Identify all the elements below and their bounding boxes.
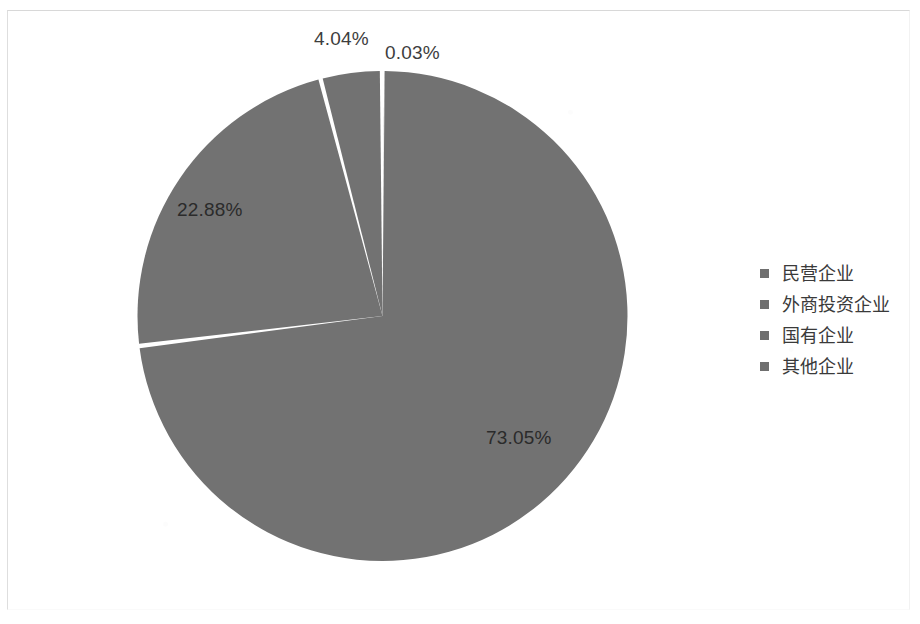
- pie-slices: [138, 71, 628, 561]
- pie-label-waishang: 22.88%: [177, 199, 243, 221]
- pie-label-minying: 73.05%: [486, 427, 552, 449]
- legend-item-label: 外商投资企业: [782, 296, 890, 314]
- legend-item-label: 其他企业: [782, 358, 854, 376]
- legend-item-label: 民营企业: [782, 265, 854, 283]
- pie-label-guoyou: 4.04%: [314, 28, 369, 50]
- legend-item-minying[interactable]: 民营企业: [760, 258, 912, 289]
- legend-item-label: 国有企业: [782, 327, 854, 345]
- pie-label-qita: 0.03%: [385, 42, 440, 64]
- legend-swatch-icon: [760, 362, 769, 371]
- legend-swatch-icon: [760, 331, 769, 340]
- legend-swatch-icon: [760, 300, 769, 309]
- legend-item-guoyou[interactable]: 国有企业: [760, 320, 912, 351]
- legend-item-qita[interactable]: 其他企业: [760, 351, 912, 382]
- chart-legend: 民营企业 外商投资企业 国有企业 其他企业: [760, 258, 912, 382]
- legend-item-waishang[interactable]: 外商投资企业: [760, 289, 912, 320]
- legend-swatch-icon: [760, 269, 769, 278]
- pie-chart-figure: 4.04% 0.03% 22.88% 73.05% 民营企业 外商投资企业 国有…: [0, 0, 920, 624]
